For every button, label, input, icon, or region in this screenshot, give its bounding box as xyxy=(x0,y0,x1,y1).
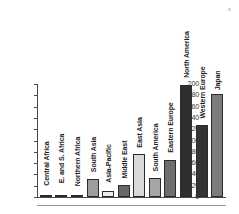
bar-slot: South Asia xyxy=(85,84,101,197)
bar xyxy=(102,191,114,197)
bar-slot: Northern Africa xyxy=(69,84,85,197)
bar-slot: Middle East xyxy=(116,84,132,197)
bar-category-label: Northern Africa xyxy=(73,136,80,186)
bar-category-label: Eastern Europe xyxy=(167,103,174,153)
bar xyxy=(149,178,161,197)
bar-category-label: Middle East xyxy=(120,140,127,178)
bar-slot: Eastern Europe xyxy=(163,84,179,197)
bar xyxy=(211,94,223,197)
bar-category-label: North America xyxy=(182,31,189,78)
bar-category-label: East Asia xyxy=(136,117,143,147)
bar-slot: E. and S. Africa xyxy=(54,84,70,197)
corner-artifact xyxy=(228,8,231,11)
bar-series: Central AfricaE. and S. AfricaNorthern A… xyxy=(38,84,225,197)
bar-category-label: E. and S. Africa xyxy=(58,134,65,184)
bar-category-label: Asia-Pacific xyxy=(105,144,112,183)
bar-category-label: South Asia xyxy=(89,137,96,172)
bar xyxy=(196,125,208,197)
y-axis-tick xyxy=(34,197,38,198)
bar-category-label: South America xyxy=(151,124,158,172)
bar-category-label: Japan xyxy=(214,71,221,91)
bar-slot: East Asia xyxy=(131,84,147,197)
plot-area: Central AfricaE. and S. AfricaNorthern A… xyxy=(38,84,225,197)
bar-slot: Central Africa xyxy=(38,84,54,197)
bar-slot: Asia-Pacific xyxy=(100,84,116,197)
bar xyxy=(55,195,67,197)
bar-slot: North America xyxy=(178,84,194,197)
bar-category-label: Western Europe xyxy=(198,67,205,119)
bar-slot: Western Europe xyxy=(194,84,210,197)
bar xyxy=(87,179,99,197)
bar xyxy=(180,85,192,197)
bar-slot: Japan xyxy=(209,84,225,197)
bar-chart: 200180160140120100806040200 Central Afri… xyxy=(0,0,239,214)
bar-category-label: Central Africa xyxy=(42,141,49,185)
bar xyxy=(40,195,52,197)
bar xyxy=(118,185,130,197)
bar-slot: South America xyxy=(147,84,163,197)
bar xyxy=(164,160,176,197)
bar xyxy=(71,195,83,197)
x-axis-baseline-secondary xyxy=(37,205,226,206)
bar xyxy=(133,154,145,197)
